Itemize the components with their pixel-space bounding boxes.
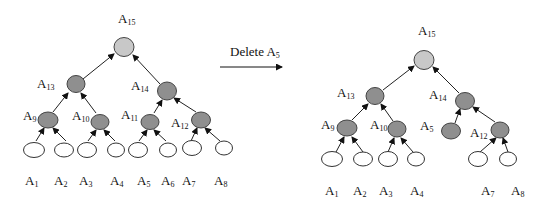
- label-a13: A13: [337, 85, 354, 101]
- label-a15: A15: [418, 23, 435, 39]
- node-a9: [38, 112, 58, 128]
- label-a8: A8: [511, 183, 524, 199]
- label-a10: A10: [72, 108, 89, 124]
- delete-operation: Delete A5: [220, 44, 282, 67]
- label-a3: A3: [379, 183, 392, 199]
- edge-a1-a9: [36, 128, 44, 141]
- label-a9: A9: [321, 117, 334, 133]
- label-a8: A8: [214, 173, 227, 189]
- label-a11: A11: [121, 107, 138, 123]
- edge-a8-a12: [205, 128, 220, 141]
- delete-label: Delete A5: [230, 44, 280, 60]
- node-a13: [67, 76, 85, 93]
- label-a12: A12: [470, 125, 487, 141]
- label-a2: A2: [54, 173, 67, 189]
- leaf-a5: [129, 143, 148, 158]
- node-a13: [366, 88, 384, 105]
- node-a14: [158, 82, 177, 100]
- edge-a8-a12: [503, 138, 508, 152]
- node-a12: [491, 122, 509, 138]
- leaf-a8: [216, 141, 233, 155]
- edge-a13-a15: [83, 54, 114, 79]
- right-tree: A15 A13 A14 A9 A10 A5 A12 A1 A2 A3 A4 A7…: [321, 23, 524, 199]
- edge-a1-a9: [336, 137, 344, 152]
- edge-a7-a12: [191, 128, 197, 141]
- left-tree: A15 A13 A14 A9 A10 A11 A12 A1 A2 A3 A4 A…: [23, 11, 233, 189]
- label-a3: A3: [79, 173, 92, 189]
- label-a2: A2: [353, 183, 366, 199]
- edge-a3-a10: [388, 138, 394, 152]
- node-a14: [456, 93, 475, 110]
- edge-a5-a14: [455, 109, 460, 123]
- leaf-a1: [322, 152, 343, 167]
- leaf-a6: [160, 143, 177, 157]
- edge-a4-a10: [104, 130, 115, 141]
- leaf-a3: [379, 152, 398, 167]
- left-tree-edges: [36, 54, 220, 141]
- edge-a3-a10: [88, 130, 96, 141]
- edge-a12-a14: [473, 107, 495, 122]
- node-a9: [337, 120, 357, 136]
- node-a10: [91, 115, 109, 130]
- label-a1: A1: [325, 183, 338, 199]
- label-a9: A9: [23, 108, 36, 124]
- node-a12: [192, 112, 211, 128]
- leaf-a4: [108, 143, 125, 157]
- leaf-a2: [354, 152, 373, 166]
- label-a7: A7: [481, 183, 494, 199]
- edge-a2-a9: [352, 137, 363, 152]
- label-a12: A12: [171, 115, 188, 131]
- edge-a4-a10: [401, 138, 413, 152]
- label-a14: A14: [429, 87, 446, 103]
- leaf-a7: [469, 152, 488, 167]
- leaf-a2: [55, 143, 74, 157]
- label-a15: A15: [118, 11, 135, 27]
- edge-a5-a11: [139, 130, 147, 141]
- edge-a10-a13: [81, 93, 96, 113]
- leaf-a8: [500, 152, 517, 166]
- label-a10: A10: [370, 117, 387, 133]
- node-a11: [141, 115, 159, 130]
- label-a6: A6: [161, 173, 174, 189]
- label-a14: A14: [131, 78, 148, 94]
- right-tree-labels: A15 A13 A14 A9 A10 A5 A12 A1 A2 A3 A4 A7…: [321, 23, 524, 199]
- edge-a6-a11: [154, 130, 166, 141]
- edge-a11-a14: [154, 100, 162, 113]
- label-a5: A5: [137, 173, 150, 189]
- node-a15: [414, 51, 434, 70]
- leaf-a1: [24, 143, 45, 158]
- tree-deletion-diagram: A15 A13 A14 A9 A10 A11 A12 A1 A2 A3 A4 A…: [0, 0, 546, 205]
- label-a1: A1: [25, 173, 38, 189]
- edge-a9-a13: [352, 104, 368, 120]
- node-a10: [388, 121, 406, 137]
- edge-a10-a13: [381, 104, 393, 121]
- label-a4: A4: [110, 173, 123, 189]
- leaf-a4: [408, 152, 425, 166]
- node-a15: [114, 38, 134, 57]
- label-a5: A5: [420, 118, 433, 134]
- leaf-a3: [78, 143, 97, 158]
- label-a7: A7: [182, 173, 195, 189]
- edge-a9-a13: [53, 93, 68, 112]
- leaf-a7: [183, 141, 202, 156]
- edge-a13-a15: [383, 66, 414, 90]
- label-a13: A13: [37, 76, 54, 92]
- node-a5: [442, 123, 461, 139]
- edge-a2-a9: [53, 128, 66, 141]
- edge-a12-a14: [174, 98, 196, 112]
- label-a4: A4: [410, 183, 423, 199]
